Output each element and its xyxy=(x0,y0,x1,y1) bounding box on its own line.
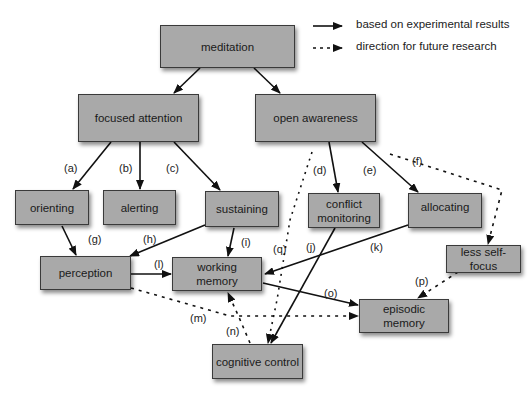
edge-label-q: (q) xyxy=(273,243,286,255)
node-label: perception xyxy=(59,266,113,280)
edge-c xyxy=(174,142,220,190)
edge-label-c: (c) xyxy=(166,162,179,174)
legend-dashed-label: direction for future research xyxy=(356,40,497,52)
node-label: cognitive control xyxy=(216,355,299,369)
node-alerting: alerting xyxy=(103,190,176,225)
edge-label-a: (a) xyxy=(64,162,77,174)
node-label: working memory xyxy=(191,260,243,288)
edge-g xyxy=(62,226,76,255)
node-focused-attention: focused attention xyxy=(78,94,199,142)
node-label: focused attention xyxy=(95,111,183,125)
edge-label-j: (j) xyxy=(306,241,316,253)
edge-meditation-open xyxy=(254,68,280,93)
edge-label-o: (o) xyxy=(324,287,337,299)
node-allocating: allocating xyxy=(408,193,482,228)
edge-label-p: (p) xyxy=(415,275,428,287)
node-label: open awareness xyxy=(273,111,357,125)
node-label: sustaining xyxy=(216,202,268,216)
edge-label-k: (k) xyxy=(370,241,383,253)
edge-a xyxy=(73,142,111,189)
edge-label-b: (b) xyxy=(119,162,132,174)
node-label: conflict monitoring xyxy=(315,197,373,225)
edge-label-m: (m) xyxy=(190,312,207,324)
edge-label-i: (i) xyxy=(241,236,251,248)
node-less-self-focus: less self-focus xyxy=(446,245,521,273)
node-label: episodic memory xyxy=(378,302,430,330)
node-perception: perception xyxy=(40,256,131,290)
edge-h xyxy=(130,225,205,256)
edge-label-h: (h) xyxy=(143,233,156,245)
node-working-memory: working memory xyxy=(172,257,262,291)
node-orienting: orienting xyxy=(15,190,89,225)
edge-d xyxy=(329,142,338,192)
node-cognitive-control: cognitive control xyxy=(212,344,303,379)
edge-i xyxy=(228,228,234,256)
node-label: alerting xyxy=(121,201,159,215)
node-meditation: meditation xyxy=(160,25,295,68)
edge-label-l: (l) xyxy=(154,258,164,270)
node-label: meditation xyxy=(201,40,254,54)
edge-label-e: (e) xyxy=(363,164,376,176)
node-label: less self-focus xyxy=(457,245,510,273)
edge-label-n: (n) xyxy=(226,325,239,337)
node-sustaining: sustaining xyxy=(205,191,279,227)
edge-meditation-focused xyxy=(174,68,200,93)
edge-label-g: (g) xyxy=(88,233,101,245)
node-episodic-memory: episodic memory xyxy=(359,299,449,333)
legend-solid-label: based on experimental results xyxy=(356,18,509,30)
node-open-awareness: open awareness xyxy=(255,94,376,142)
edge-label-f: (f) xyxy=(412,155,422,167)
node-label: allocating xyxy=(421,200,470,214)
node-label: orienting xyxy=(30,201,74,215)
edge-label-d: (d) xyxy=(313,164,326,176)
node-conflict-monitoring: conflict monitoring xyxy=(308,193,380,228)
